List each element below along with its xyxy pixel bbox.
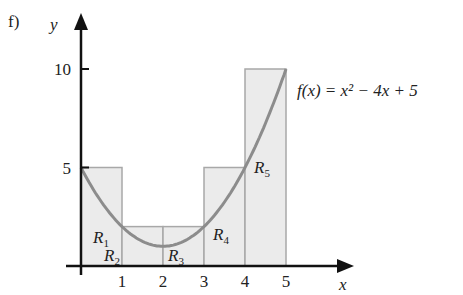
x-tick-label: 2 [159,272,168,291]
y-axis-label: y [48,15,58,34]
rectangle-r1 [81,168,122,267]
y-ticks: 510 [54,60,89,178]
x-tick-label: 3 [200,272,209,291]
y-axis-arrow-icon [74,13,88,30]
x-axis-label: x [338,275,347,294]
rectangle-r4 [204,168,245,267]
function-label: f(x) = x² − 4x + 5 [297,81,418,100]
x-axis-arrow-icon [337,259,354,273]
x-tick-label: 5 [282,272,291,291]
y-tick-label: 10 [54,60,71,79]
y-tick-label: 5 [63,159,72,178]
x-tick-label: 4 [241,272,250,291]
x-ticks: 12345 [118,272,291,291]
riemann-sum-chart: R1R2R3R4R5 510 12345 y x f(x) = x² − 4x … [0,0,463,295]
x-tick-label: 1 [118,272,127,291]
